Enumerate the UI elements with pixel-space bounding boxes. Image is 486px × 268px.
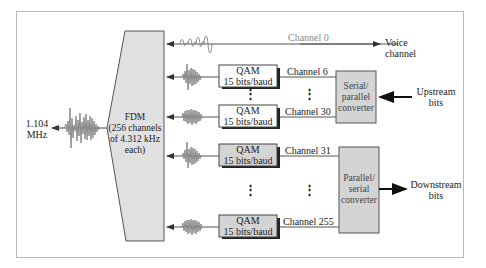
ellipsis-qam-upper: ⋮ — [244, 88, 257, 99]
upstream-line1: Upstream — [411, 86, 461, 97]
qam-30-label: QAM 15 bits/baud — [219, 105, 277, 127]
ellipsis-qam-lower: ⋮ — [244, 184, 257, 195]
fdm-detail-2: of 4.312 kHz — [104, 134, 166, 145]
qam-31-rate: 15 bits/baud — [219, 155, 277, 166]
voice-line2: channel — [385, 48, 416, 59]
fdm-detail-1: (256 channels — [104, 123, 166, 134]
qam-255-title: QAM — [219, 215, 277, 226]
fdm-detail-3: each) — [104, 145, 166, 156]
sp-line2: parallel — [336, 92, 376, 103]
downstream-bits-label: Downstream bits — [405, 179, 467, 201]
serial-parallel-label: Serial/ parallel converter — [336, 81, 376, 114]
input-frequency-value: 1.104 — [22, 118, 52, 129]
voice-channel-label: Voice channel — [385, 37, 416, 59]
channel-31-label: Channel 31 — [285, 145, 331, 156]
qam-30-rate: 15 bits/baud — [219, 116, 277, 127]
input-frequency-label: 1.104 MHz — [22, 118, 52, 140]
channel-255-label: Channel 255 — [283, 216, 334, 227]
downstream-line1: Downstream — [405, 179, 467, 190]
channel-30-label: Channel 30 — [285, 106, 331, 117]
qam-31-title: QAM — [219, 144, 277, 155]
ps-line3: converter — [339, 195, 379, 206]
qam-30-title: QAM — [219, 105, 277, 116]
ps-line2: serial — [339, 184, 379, 195]
qam-255-label: QAM 15 bits/baud — [219, 215, 277, 237]
ellipsis-channel-lower: ⋮ — [303, 184, 316, 195]
fdm-title: FDM — [104, 112, 166, 123]
input-frequency-unit: MHz — [22, 129, 52, 140]
input-waveform — [64, 108, 99, 148]
channel-0-label: Channel 0 — [288, 32, 329, 43]
upstream-line2: bits — [411, 97, 461, 108]
downstream-line2: bits — [405, 190, 467, 201]
channel-31-waveform — [182, 142, 202, 168]
voice-line1: Voice — [385, 37, 416, 48]
fdm-label: FDM (256 channels of 4.312 kHz each) — [104, 112, 166, 156]
sp-line1: Serial/ — [336, 81, 376, 92]
qam-6-title: QAM — [219, 65, 277, 76]
qam-255-rate: 15 bits/baud — [219, 226, 277, 237]
ellipsis-channel-upper: ⋮ — [303, 88, 316, 99]
channel-6-waveform — [182, 64, 202, 90]
qam-31-label: QAM 15 bits/baud — [219, 144, 277, 166]
upstream-bits-label: Upstream bits — [411, 86, 461, 108]
ps-line1: Parallel/ — [339, 173, 379, 184]
sp-line3: converter — [336, 103, 376, 114]
qam-6-label: QAM 15 bits/baud — [219, 65, 277, 87]
parallel-serial-label: Parallel/ serial converter — [339, 173, 379, 206]
channel-6-label: Channel 6 — [287, 66, 328, 77]
